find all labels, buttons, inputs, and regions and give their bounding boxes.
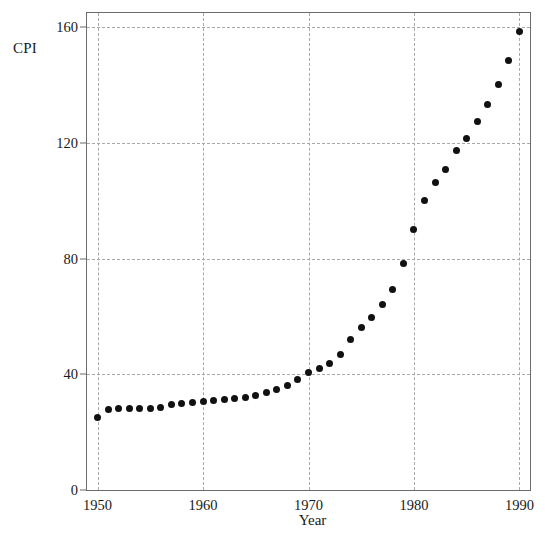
- y-tick-mark-160: [80, 27, 87, 28]
- data-point: [410, 226, 417, 233]
- data-point: [358, 324, 365, 331]
- data-point: [168, 401, 175, 408]
- y-tick-label-40: 40: [64, 366, 79, 383]
- gridline-horizontal-80: [87, 259, 530, 260]
- data-point: [263, 389, 270, 396]
- data-point: [379, 301, 386, 308]
- data-point: [495, 81, 502, 88]
- data-point: [337, 351, 344, 358]
- gridline-vertical-1960: [203, 13, 204, 490]
- x-axis-label-text: Year: [219, 512, 327, 528]
- data-point: [147, 405, 154, 412]
- data-point: [115, 405, 122, 412]
- y-tick-label-160: 160: [56, 19, 78, 36]
- data-point: [126, 405, 133, 412]
- x-tick-label-1950: 1950: [83, 497, 112, 514]
- plot-area: 1950196019701980199004080120160: [86, 12, 531, 491]
- data-point: [474, 118, 481, 125]
- data-point: [516, 28, 523, 35]
- x-tick-label-1960: 1960: [189, 497, 218, 514]
- data-point: [316, 365, 323, 372]
- data-point: [210, 397, 217, 404]
- data-point: [136, 405, 143, 412]
- data-point: [347, 336, 354, 343]
- y-tick-label-80: 80: [64, 250, 79, 267]
- data-point: [294, 376, 301, 383]
- y-tick-label-120: 120: [56, 135, 78, 152]
- data-point: [421, 197, 428, 204]
- gridline-vertical-1970: [309, 13, 310, 490]
- data-point: [326, 360, 333, 367]
- data-point: [484, 101, 491, 108]
- data-point: [284, 382, 291, 389]
- data-point: [178, 400, 185, 407]
- data-point: [273, 386, 280, 393]
- data-point: [200, 398, 207, 405]
- data-point: [94, 414, 101, 421]
- y-tick-mark-80: [80, 258, 87, 259]
- x-tick-label-1990: 1990: [505, 497, 534, 514]
- x-axis-label: Year: [0, 512, 545, 529]
- data-point: [105, 406, 112, 413]
- cpi-scatter-figure: CPI Year 1950196019701980199004080120160: [0, 0, 545, 540]
- data-point: [368, 314, 375, 321]
- gridline-horizontal-120: [87, 143, 530, 144]
- data-point: [463, 135, 470, 142]
- data-point: [432, 179, 439, 186]
- y-tick-mark-120: [80, 143, 87, 144]
- data-point: [231, 395, 238, 402]
- data-point: [189, 399, 196, 406]
- y-tick-mark-0: [80, 490, 87, 491]
- data-point: [242, 394, 249, 401]
- data-point: [505, 57, 512, 64]
- data-point: [400, 260, 407, 267]
- gridline-vertical-1980: [414, 13, 415, 490]
- y-axis-label: CPI: [13, 40, 37, 57]
- data-point: [252, 392, 259, 399]
- data-point: [453, 147, 460, 154]
- y-tick-label-0: 0: [71, 482, 78, 499]
- data-point: [442, 166, 449, 173]
- y-tick-mark-40: [80, 374, 87, 375]
- x-tick-label-1980: 1980: [399, 497, 428, 514]
- gridline-vertical-1990: [519, 13, 520, 490]
- x-tick-label-1970: 1970: [294, 497, 323, 514]
- gridline-horizontal-160: [87, 27, 530, 28]
- data-point: [221, 396, 228, 403]
- data-point: [157, 404, 164, 411]
- data-point: [389, 286, 396, 293]
